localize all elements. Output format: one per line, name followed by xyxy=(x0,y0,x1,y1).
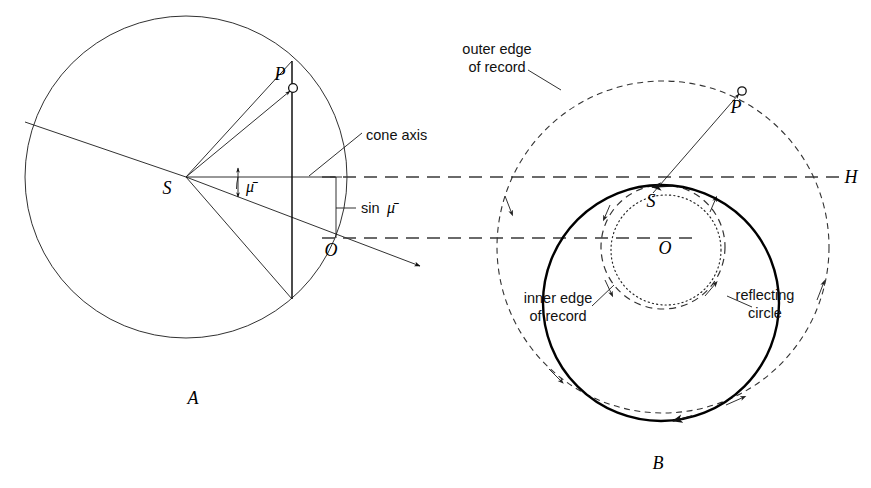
panel-a-caption: A xyxy=(187,388,200,408)
figure-root: S P O cone axis sin μ̄ μ̄ A xyxy=(0,0,871,488)
panel-a-label-sin: sin xyxy=(361,200,380,216)
panel-b-label-O: O xyxy=(659,238,672,258)
panel-b-label-P: P xyxy=(730,97,742,117)
panel-b-point-P-marker xyxy=(738,87,746,95)
panel-b-label-H: H xyxy=(844,167,859,187)
crystallography-figure: S P O cone axis sin μ̄ μ̄ A xyxy=(0,0,871,488)
panel-b-label-outer-edge-line1: outer edge xyxy=(462,41,531,57)
panel-b-label-reflecting-line2: circle xyxy=(748,305,782,321)
panel-b-label-outer-edge-line2: of record xyxy=(468,59,525,75)
panel-a-point-P-marker xyxy=(289,84,298,93)
panel-a-label-S: S xyxy=(163,178,172,198)
figure-background xyxy=(0,0,871,488)
panel-b-label-S: S xyxy=(647,191,656,211)
panel-a-label-O: O xyxy=(325,240,338,260)
panel-b-caption: B xyxy=(653,453,664,473)
panel-b-label-inner-edge-line2: of record xyxy=(529,308,586,324)
panel-a-label-cone-axis: cone axis xyxy=(366,127,427,143)
panel-b-label-inner-edge-line1: inner edge xyxy=(524,290,593,306)
panel-b-label-reflecting-line1: reflecting xyxy=(736,287,795,303)
panel-a-label-P: P xyxy=(274,64,286,84)
panel-b-reflecting-circle-arrow-top xyxy=(652,186,672,187)
